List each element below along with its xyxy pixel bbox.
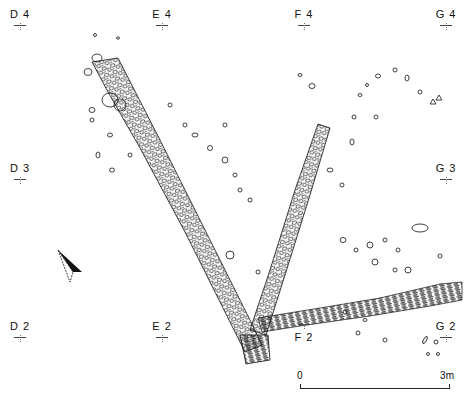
grid-marker-d2: D 2 [0,320,40,341]
grid-tick-icon [298,322,310,328]
grid-marker-e2: E 2 [142,320,182,341]
grid-label: D 3 [0,162,40,174]
grid-marker-d3: D 3 [0,162,40,183]
grid-marker-e4: E 4 [142,8,182,29]
grid-label: F 2 [284,331,324,343]
wall-junction [240,335,270,364]
grid-tick-icon [156,335,168,341]
grid-marker-f4: F 4 [284,8,324,29]
grid-label: G 2 [426,320,466,332]
scale-bar-line [300,384,450,389]
grid-marker-g4: G 4 [426,8,466,29]
grid-label: F 4 [284,8,324,20]
northeast-wall [250,124,330,335]
north-arrow-icon [56,248,86,284]
grid-marker-d4: D 4 [0,8,40,29]
grid-tick-icon [440,335,452,341]
grid-label: D 4 [0,8,40,20]
grid-tick-icon [156,23,168,29]
grid-tick-icon [440,23,452,29]
grid-tick-icon [298,23,310,29]
grid-tick-icon [14,335,26,341]
scale-start-label: 0 [297,370,303,381]
site-plan-drawing [0,0,472,401]
scale-bar: 0 3m [300,370,450,394]
grid-label: D 2 [0,320,40,332]
grid-marker-f2: F 2 [284,322,324,343]
grid-tick-icon [440,177,452,183]
grid-label: G 3 [426,162,466,174]
grid-tick-icon [14,23,26,29]
scale-end-label: 3m [440,370,454,381]
grid-marker-g3: G 3 [426,162,466,183]
grid-marker-g2: G 2 [426,320,466,341]
grid-label: E 2 [142,320,182,332]
grid-label: G 4 [426,8,466,20]
grid-label: E 4 [142,8,182,20]
north-arrow [56,248,86,284]
grid-tick-icon [14,177,26,183]
